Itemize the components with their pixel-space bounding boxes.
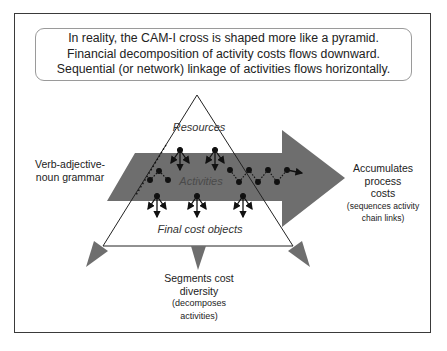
bottom-annotation-line-4: activities)	[157, 310, 241, 323]
bottom-annotation: Segments cost diversity (decomposes acti…	[157, 272, 241, 322]
right-annotation-line-3: costs	[340, 187, 426, 200]
resources-label: Resources	[171, 121, 227, 133]
down-center-arrow	[191, 246, 206, 270]
activities-label: Activities	[175, 175, 227, 187]
bottom-annotation-line-1: Segments cost	[157, 272, 241, 285]
left-annotation-line-1: Verb-adjective-	[30, 158, 110, 171]
bottom-annotation-line-3: (decomposes	[157, 297, 241, 310]
final-cost-objects-label: Final cost objects	[155, 223, 245, 235]
right-annotation-line-5: chain links)	[340, 212, 426, 224]
down-left-arrow	[86, 241, 108, 267]
down-right-arrow	[288, 241, 310, 267]
left-annotation-line-2: noun grammar	[30, 171, 110, 184]
right-annotation-line-1: Accumulates	[340, 162, 426, 175]
right-annotation: Accumulates process costs (sequences act…	[340, 162, 426, 224]
left-annotation: Verb-adjective- noun grammar	[30, 158, 110, 184]
right-annotation-line-4: (sequences activity	[340, 200, 426, 212]
bottom-annotation-line-2: diversity	[157, 285, 241, 298]
right-annotation-line-2: process	[340, 175, 426, 188]
